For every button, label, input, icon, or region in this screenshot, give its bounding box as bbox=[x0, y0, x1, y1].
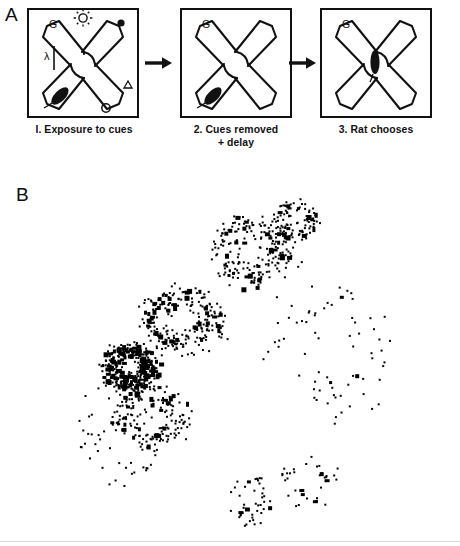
panel-a-label: A bbox=[5, 4, 18, 26]
lamp-icon bbox=[74, 9, 93, 26]
filled-circle-cue bbox=[117, 19, 124, 26]
scatter-plot bbox=[0, 170, 460, 546]
arrow-step-1-to-2 bbox=[145, 56, 173, 74]
arrow-step-2-to-3 bbox=[289, 56, 317, 74]
goal-letter-cue-1: G bbox=[49, 19, 57, 30]
caption-step-3: 3. Rat chooses bbox=[308, 124, 444, 137]
goal-letter-cue-2: G bbox=[202, 19, 210, 30]
maze-diagram-step-3: G bbox=[320, 8, 432, 118]
lambda-cue-1: λ bbox=[44, 51, 50, 62]
caption-step-2: 2. Cues removed + delay bbox=[170, 124, 302, 149]
maze-diagram-step-2: G bbox=[180, 8, 292, 118]
figure-root: A bbox=[0, 0, 460, 546]
panel-a: A bbox=[0, 0, 460, 160]
maze-drawing-3 bbox=[320, 8, 432, 118]
panel-b bbox=[0, 170, 460, 546]
caption-step-1: I. Exposure to cues bbox=[16, 124, 152, 137]
page-bottom-edge bbox=[0, 541, 460, 542]
goal-letter-cue-3: G bbox=[342, 19, 350, 30]
triangle-cue bbox=[124, 81, 132, 88]
maze-drawing-2 bbox=[180, 8, 292, 118]
maze-drawing-1 bbox=[27, 8, 139, 118]
maze-diagram-step-1: G λ bbox=[27, 8, 139, 118]
